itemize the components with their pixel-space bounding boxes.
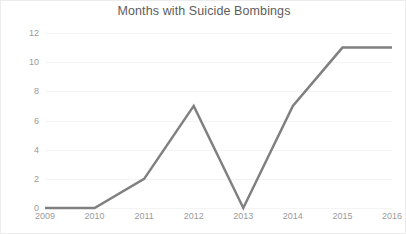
y-tick-label: 4 [9,145,39,155]
x-tick-label: 2010 [85,211,105,221]
plot-area [45,33,392,208]
y-tick-label: 12 [9,28,39,38]
x-tick-label: 2012 [184,211,204,221]
x-tick-label: 2013 [233,211,253,221]
x-tick-label: 2014 [283,211,303,221]
x-tick-label: 2011 [134,211,153,221]
series-polyline [45,48,392,208]
gridline-0 [45,208,392,209]
y-tick-label: 6 [9,116,39,126]
y-tick-label: 2 [9,174,39,184]
y-tick-label: 10 [9,57,39,67]
x-tick-label: 2015 [332,211,352,221]
y-tick-label: 8 [9,86,39,96]
line-series [45,33,392,208]
y-axis-tick-labels: 024681012 [9,33,39,208]
x-tick-label: 2016 [382,211,402,221]
chart-container: Months with Suicide Bombings 024681012 2… [0,0,406,234]
x-axis-tick-labels: 20092010201120122013201420152016 [45,211,392,231]
x-tick-label: 2009 [35,211,55,221]
chart-title: Months with Suicide Bombings [1,4,406,18]
